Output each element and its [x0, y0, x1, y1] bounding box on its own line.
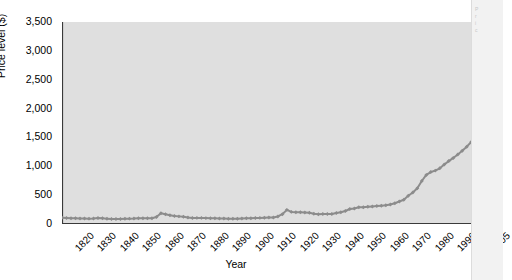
y-tick-label: 0 [0, 217, 52, 229]
x-tick-label: 1900 [252, 230, 276, 254]
y-tick-label: 2,000 [0, 102, 52, 114]
x-tick-label: 1910 [275, 230, 299, 254]
x-tick-label: 1820 [73, 230, 97, 254]
x-tick-label: 1870 [185, 230, 209, 254]
x-tick-label: 1860 [162, 230, 186, 254]
x-tick-label: 1970 [410, 230, 434, 254]
x-tick-label: 1850 [140, 230, 164, 254]
x-tick-label: 1890 [230, 230, 254, 254]
x-tick-label: 1830 [95, 230, 119, 254]
x-tick-label: 1980 [432, 230, 456, 254]
x-tick-label: 1880 [207, 230, 231, 254]
gutter-text: P r i c [475, 6, 479, 34]
x-axis-label: Year [0, 258, 472, 270]
x-tick-label: 1840 [117, 230, 141, 254]
price-level-series [62, 22, 478, 224]
plot-area [62, 22, 478, 224]
y-tick-label: 3,000 [0, 44, 52, 56]
y-tick-label: 1,000 [0, 159, 52, 171]
x-tick-label: 1920 [297, 230, 321, 254]
y-tick-label: 1,500 [0, 130, 52, 142]
page-gutter: P r i c [471, 0, 503, 280]
x-tick-label: 1960 [387, 230, 411, 254]
y-tick-label: 2,500 [0, 73, 52, 85]
x-tick-label: 1940 [342, 230, 366, 254]
y-tick-label: 500 [0, 188, 52, 200]
x-tick-label: 1950 [365, 230, 389, 254]
x-tick-label: 1930 [320, 230, 344, 254]
y-tick-label: 3,500 [0, 15, 52, 27]
chart-figure: Price level ($) 05001,0001,5002,0002,500… [0, 0, 472, 280]
